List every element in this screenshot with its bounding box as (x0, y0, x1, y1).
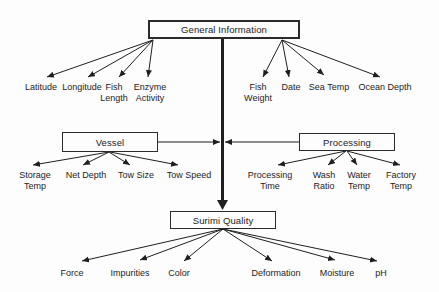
label-date: Date (281, 82, 300, 93)
label-ph: pH (375, 268, 387, 279)
arrow-general-to-fish-weight (263, 40, 282, 77)
label-latitude: Latitude (25, 82, 57, 93)
label-processing-time: Processing Time (242, 170, 298, 192)
arrow-general-to-ocean-depth (282, 40, 380, 77)
label-fish-length: Fish Length (96, 82, 132, 104)
arrow-vessel-to-storage-temp (33, 152, 109, 165)
arrow-general-to-sea-temp (282, 40, 324, 75)
label-moisture: Moisture (320, 268, 355, 279)
arrow-group-processing (278, 151, 400, 165)
node-processing-label: Processing (323, 137, 371, 148)
arrow-group-vessel (33, 152, 178, 165)
arrow-general-to-enzyme-activity (148, 40, 153, 77)
node-general-information-label: General Information (181, 24, 267, 35)
node-surimi-quality-label: Surimi Quality (193, 215, 254, 226)
label-net-depth: Net Depth (66, 170, 107, 181)
label-tow-speed: Tow Speed (167, 170, 212, 181)
label-deformation: Deformation (251, 268, 300, 279)
arrow-general-to-latitude (47, 40, 153, 77)
node-surimi-quality: Surimi Quality (170, 211, 276, 229)
arrow-processing-to-processing-time (278, 151, 346, 165)
label-force: Force (60, 268, 83, 279)
surimi-quality-factor-diagram: General Information Vessel Processing Su… (0, 0, 439, 292)
label-water-temp: Water Temp (342, 170, 376, 192)
label-enzyme-activity: Enzyme Activity (129, 82, 171, 104)
arrow-group-surimi (82, 229, 377, 261)
label-fish-weight: Fish Weight (239, 82, 277, 104)
arrow-group-general-right (263, 40, 380, 77)
node-processing: Processing (299, 133, 395, 151)
arrow-surimi-to-ph (223, 229, 377, 261)
label-tow-size: Tow Size (118, 170, 154, 181)
label-factory-temp: Factory Temp (380, 170, 422, 192)
node-vessel-label: Vessel (96, 137, 125, 148)
label-sea-temp: Sea Temp (309, 82, 349, 93)
label-impurities: Impurities (110, 268, 149, 279)
label-ocean-depth: Ocean Depth (358, 82, 411, 93)
arrow-surimi-to-force (82, 229, 223, 261)
node-general-information: General Information (148, 20, 300, 39)
arrowhead-surimi-icon (217, 200, 228, 210)
label-storage-temp: Storage Temp (14, 170, 56, 192)
label-color: Color (168, 268, 190, 279)
arrow-group-general-left (47, 40, 153, 77)
arrow-general-to-longitude (88, 40, 153, 77)
label-wash-ratio: Wash Ratio (308, 170, 340, 192)
arrow-surimi-to-moisture (223, 229, 335, 260)
node-vessel: Vessel (62, 132, 158, 152)
